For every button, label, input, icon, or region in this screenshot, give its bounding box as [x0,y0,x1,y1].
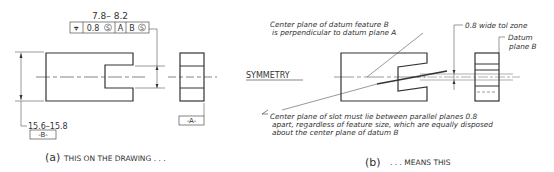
datum-b-label: -B- [38,131,48,139]
caption-a-letter: (a) [45,151,60,164]
technical-drawing: 7.8– 8.2 ⌖ 0.8 S A B S 15.6–15.8 -B- -A-… [0,0,554,172]
caption-a: THIS ON THE DRAWING . . . [63,154,166,163]
note-tol-zone: 0.8 wide tol zone [465,21,528,30]
datum-a-label: -A- [187,117,197,125]
symmetry-heading: SYMMETRY [246,71,290,80]
overall-dimension: 15.6–15.8 [28,122,68,131]
fcf-tolerance: 0.8 [87,24,100,33]
caption-b: . . . MEANS THIS [390,158,451,167]
fcf-datum-1: A [118,24,124,33]
fcf-datum-2: B [129,24,135,33]
fcf-modifier-2: S [140,24,144,31]
position-symbol-icon: ⌖ [74,24,79,33]
caption-b-letter: (b) [365,156,381,169]
note-datum-line-1: Datum [508,33,533,42]
note-datum-line-2: plane B [508,42,537,51]
fcf-modifier-1: S [106,24,110,31]
note-top-line-2: is perpendicular to datum plane A [272,28,396,37]
note-bottom-line-3: about the center plane of datum B [272,128,398,137]
slot-dimension: 7.8– 8.2 [92,11,128,21]
